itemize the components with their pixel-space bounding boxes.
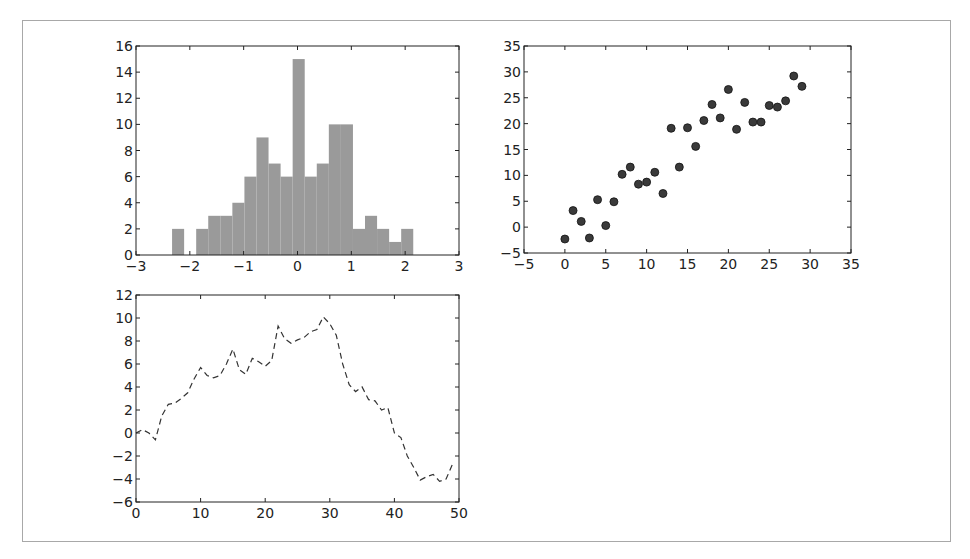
x-tick-label: 35 <box>842 256 860 272</box>
scatter-point <box>684 124 692 132</box>
scatter-point <box>749 118 757 126</box>
scatter-point <box>708 100 716 108</box>
y-tick-label: 30 <box>503 64 521 80</box>
scatter-point <box>569 207 577 215</box>
y-tick-label: 0 <box>512 219 521 235</box>
scatter-point <box>651 168 659 176</box>
y-tick-label: 25 <box>503 90 521 106</box>
scatter-point <box>659 189 667 197</box>
x-tick-label: 2 <box>401 258 410 274</box>
histogram-bar <box>389 242 401 255</box>
axes-frame <box>136 295 459 502</box>
scatter-point <box>643 178 651 186</box>
x-tick-label: 20 <box>256 505 274 521</box>
y-tick-label: −2 <box>112 448 133 464</box>
y-tick-label: 0 <box>124 247 133 263</box>
x-tick-label: 10 <box>638 256 656 272</box>
histogram-bar <box>317 164 329 255</box>
y-tick-label: 10 <box>115 116 133 132</box>
scatter-subplot: −505101520253035−505101520253035 <box>500 38 860 272</box>
x-tick-label: 1 <box>347 258 356 274</box>
histogram-bar <box>220 216 232 255</box>
y-tick-label: 6 <box>124 356 133 372</box>
x-tick-label: 50 <box>450 505 468 521</box>
scatter-point <box>585 234 593 242</box>
x-tick-label: 3 <box>455 258 464 274</box>
axes-frame <box>524 46 851 253</box>
y-tick-label: −5 <box>500 245 521 261</box>
y-tick-label: 8 <box>124 143 133 159</box>
y-tick-label: 10 <box>115 310 133 326</box>
scatter-point <box>798 82 806 90</box>
histogram-bar <box>256 137 268 255</box>
scatter-point <box>602 222 610 230</box>
x-tick-label: 20 <box>719 256 737 272</box>
histogram-bar <box>244 177 256 255</box>
y-tick-label: 16 <box>115 38 133 54</box>
scatter-point <box>675 163 683 171</box>
y-tick-label: 8 <box>124 333 133 349</box>
y-tick-label: 35 <box>503 38 521 54</box>
histogram-subplot: −3−2−101230246810121416 <box>115 38 463 274</box>
histogram-bar <box>377 229 389 255</box>
x-tick-label: 0 <box>560 256 569 272</box>
scatter-point <box>700 117 708 125</box>
x-tick-label: 40 <box>385 505 403 521</box>
scatter-point <box>765 102 773 110</box>
y-tick-label: −6 <box>112 494 133 510</box>
x-tick-label: 10 <box>192 505 210 521</box>
histogram-bar <box>281 177 293 255</box>
x-tick-label: −2 <box>180 258 201 274</box>
y-tick-label: 2 <box>124 221 133 237</box>
y-tick-label: 5 <box>512 193 521 209</box>
scatter-point <box>773 103 781 111</box>
scatter-point <box>618 170 626 178</box>
scatter-point <box>667 124 675 132</box>
figure-canvas: −3−2−101230246810121416 −505101520253035… <box>0 0 970 559</box>
y-tick-label: 14 <box>115 64 133 80</box>
histogram-bar <box>208 216 220 255</box>
scatter-point <box>790 72 798 80</box>
scatter-point <box>782 97 790 105</box>
scatter-point <box>577 217 585 225</box>
histogram-bar <box>365 216 377 255</box>
scatter-point <box>716 114 724 122</box>
histogram-bar <box>401 229 413 255</box>
histogram-bar <box>232 203 244 255</box>
x-tick-label: 25 <box>760 256 778 272</box>
x-tick-label: 5 <box>601 256 610 272</box>
histogram-bar <box>341 124 353 255</box>
histogram-bar <box>293 59 305 255</box>
y-tick-label: −4 <box>112 471 133 487</box>
y-tick-label: 12 <box>115 90 133 106</box>
y-tick-label: 15 <box>503 142 521 158</box>
y-tick-label: 2 <box>124 402 133 418</box>
x-tick-label: 30 <box>801 256 819 272</box>
y-tick-label: 4 <box>124 379 133 395</box>
histogram-bar <box>353 229 365 255</box>
scatter-point <box>757 118 765 126</box>
x-tick-label: 15 <box>679 256 697 272</box>
histogram-bar <box>305 177 317 255</box>
y-tick-label: 6 <box>124 169 133 185</box>
scatter-point <box>594 196 602 204</box>
scatter-point <box>733 125 741 133</box>
scatter-point <box>634 180 642 188</box>
histogram-bar <box>172 229 184 255</box>
line-subplot: 01020304050−6−4−2024681012 <box>112 287 468 521</box>
x-tick-label: 0 <box>293 258 302 274</box>
scatter-point <box>561 235 569 243</box>
y-tick-label: 10 <box>503 167 521 183</box>
dashed-line-series <box>136 317 453 481</box>
histogram-bar <box>269 164 281 255</box>
scatter-point <box>610 198 618 206</box>
x-tick-label: 30 <box>321 505 339 521</box>
scatter-point <box>741 98 749 106</box>
y-tick-label: 20 <box>503 116 521 132</box>
scatter-point <box>724 85 732 93</box>
y-tick-label: 12 <box>115 287 133 303</box>
scatter-point <box>626 163 634 171</box>
histogram-bar <box>329 124 341 255</box>
scatter-point <box>692 142 700 150</box>
y-tick-label: 4 <box>124 195 133 211</box>
